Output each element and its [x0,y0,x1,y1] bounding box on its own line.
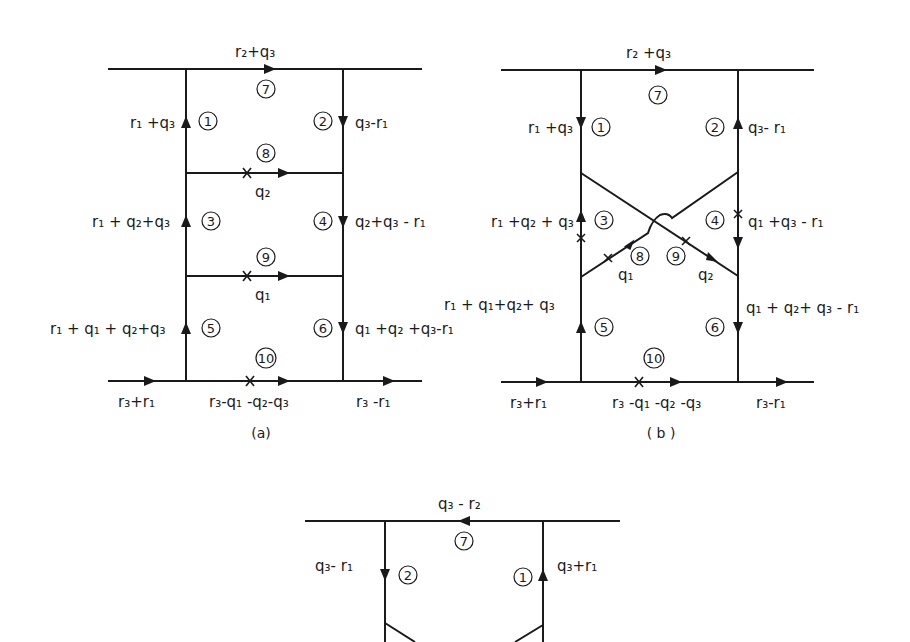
vertex-1: 1 [514,568,532,586]
edge-1-label: r₁ +q₃ [528,119,573,137]
edge-1-label: q₃+r₁ [557,557,597,575]
edge-2-label: q₃- r₁ [748,119,786,137]
incoming-label: r₃+r₁ [510,394,547,412]
edge-5-label: r₁ + q₁ + q₂+q₃ [50,320,166,338]
diagram-a: 7 1 2 8 3 4 9 5 6 10 r₂+q₃ r₁ +q₃ q₃-r₁ … [50,43,454,441]
svg-text:5: 5 [600,320,608,335]
svg-text:1: 1 [519,570,527,585]
arrow-up-icon [576,321,586,333]
edge-5-label: r₁ + q₁+q₂+ q₃ [444,296,555,314]
arrow-down-icon [380,569,390,581]
vertex-2: 2 [399,566,417,584]
svg-text:8: 8 [262,146,270,161]
arrow-down-icon [338,216,348,228]
arrow-left-icon [458,516,470,526]
edge-2-label: q₃-r₁ [355,114,388,132]
edge-3-label: r₁ + q₂+q₃ [92,213,170,231]
arrow-up-icon [181,322,191,334]
vertex-2: 2 [314,112,332,130]
svg-text:4: 4 [711,213,719,228]
incoming-label: r₃+r₁ [118,393,155,411]
svg-text:2: 2 [319,114,327,129]
edge-10-label: r₃ -q₁ -q₂ -q₃ [612,394,701,412]
edge-8-label: q₂ [255,183,271,201]
edge-9-label: q₁ [255,286,271,304]
svg-text:10: 10 [646,351,663,366]
top-momentum-label: r₂+q₃ [235,43,275,61]
diagram-b: 7 1 2 3 4 8 9 5 6 10 r₂ +q₃ r₁ +q₃ q₃- r… [444,44,859,441]
arrow-up-icon [181,215,191,227]
svg-text:1: 1 [204,114,212,129]
vertex-10: 10 [256,348,276,368]
edge-3-label: r₁ +q₂ + q₃ [491,213,574,231]
arrow-up-icon [181,116,191,128]
arrow-down-icon [733,322,743,334]
svg-text:2: 2 [404,568,412,583]
arrow-right-icon [264,64,276,74]
vertex-4: 4 [706,211,724,229]
diagonal-right [515,625,543,642]
svg-text:7: 7 [262,82,270,97]
edge-2-label: q₃- r₁ [315,557,353,575]
arrow-right-icon [670,377,682,387]
vertex-8: 8 [631,247,649,265]
svg-text:6: 6 [711,320,719,335]
vertex-1: 1 [199,112,217,130]
arrow-right-icon [776,377,788,387]
svg-text:7: 7 [654,88,662,103]
outgoing-label: r₃ -r₁ [356,393,391,411]
svg-text:5: 5 [207,321,215,336]
edge-9-label: q₂ [698,266,714,284]
vertex-2: 2 [706,118,724,136]
vertex-7: 7 [257,80,275,98]
svg-text:10: 10 [258,351,275,366]
vertex-9: 9 [667,247,685,265]
vertex-7: 7 [455,532,473,550]
arrow-right-icon [655,65,667,75]
svg-text:8: 8 [636,249,644,264]
edge-6-label: q₁ + q₂+ q₃ - r₁ [746,299,859,317]
arrow-up-icon [538,569,548,581]
arrow-right-icon [278,271,290,281]
arrow-right-icon [536,377,548,387]
vertex-7: 7 [649,86,667,104]
arrow-down-icon [338,322,348,334]
outgoing-label: r₃-r₁ [756,394,786,412]
svg-text:3: 3 [600,213,608,228]
vertex-10: 10 [644,348,664,368]
edge-10-label: r₃-q₁ -q₂-q₃ [209,393,289,411]
vertex-3: 3 [595,211,613,229]
vertex-5: 5 [595,318,613,336]
vertex-3: 3 [202,212,220,230]
svg-text:9: 9 [672,249,680,264]
edge-4-label: q₂+q₃ - r₁ [355,213,426,231]
arrow-icon [706,252,718,262]
vertex-6: 6 [706,318,724,336]
diagonal-left [385,623,415,642]
caption-a: (a) [251,425,271,441]
svg-text:4: 4 [319,214,327,229]
top-momentum-label: q₃ - r₂ [438,495,481,513]
diagram-c: 7 2 1 q₃ - r₂ q₃- r₁ q₃+r₁ [305,495,620,642]
feynman-diagrams: 7 1 2 8 3 4 9 5 6 10 r₂+q₃ r₁ +q₃ q₃-r₁ … [0,0,910,642]
top-momentum-label: r₂ +q₃ [626,44,671,62]
arrow-down-icon [576,117,586,129]
arrow-right-icon [383,376,395,386]
vertex-1: 1 [592,118,610,136]
arrow-right-icon [278,168,290,178]
arrow-right-icon [144,376,156,386]
arrow-up-icon [576,210,586,222]
edge-8-label: q₁ [618,266,634,284]
vertex-4: 4 [314,212,332,230]
svg-text:2: 2 [711,120,719,135]
svg-text:3: 3 [207,214,215,229]
arrow-up-icon [733,117,743,129]
svg-text:1: 1 [597,120,605,135]
vertex-6: 6 [314,319,332,337]
svg-text:7: 7 [460,534,468,549]
arrow-down-icon [733,237,743,249]
edge-1-label: r₁ +q₃ [130,114,175,132]
arrow-down-icon [338,116,348,128]
edge-6-label: q₁ +q₂ +q₃-r₁ [355,320,454,338]
svg-text:6: 6 [319,321,327,336]
